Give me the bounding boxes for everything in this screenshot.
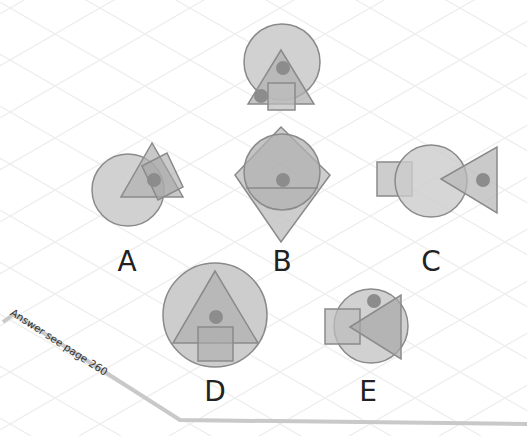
dot-shape — [147, 173, 161, 187]
dot-shape — [209, 310, 223, 324]
option-a-label[interactable]: A — [117, 248, 136, 276]
circle-shape — [244, 134, 320, 210]
dot-shape-small — [254, 89, 268, 103]
square-shape — [268, 83, 295, 110]
question-figure — [244, 24, 320, 110]
square-shape — [198, 327, 233, 361]
option-b-label[interactable]: B — [272, 248, 291, 276]
option-c-label[interactable]: C — [421, 248, 441, 276]
option-d-label[interactable]: D — [204, 378, 226, 406]
dot-shape — [276, 173, 290, 187]
dot-shape — [476, 173, 490, 187]
puzzle-canvas — [0, 0, 527, 436]
option-e-label[interactable]: E — [359, 378, 377, 406]
dot-shape — [276, 61, 290, 75]
dot-shape — [367, 294, 381, 308]
option-d-figure[interactable] — [163, 263, 267, 367]
